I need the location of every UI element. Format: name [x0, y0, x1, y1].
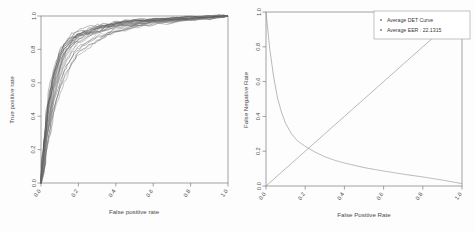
y-tick-label: 1.0: [256, 8, 262, 16]
roc-curve: [41, 15, 228, 182]
roc-curve: [41, 16, 228, 184]
legend-marker-det-curve: [380, 19, 382, 21]
roc-curve: [41, 15, 228, 183]
roc-curve: [41, 15, 228, 183]
y-tick-label: 0.6: [256, 78, 262, 86]
det-y-axis-title: False Negative Rate: [242, 71, 249, 128]
roc-curve-group: [40, 15, 228, 184]
roc-curve: [41, 16, 228, 183]
legend-label-det-curve: Average DET Curve: [387, 17, 433, 23]
y-tick-label: 0.0: [31, 179, 37, 187]
legend-marker-eer: [380, 29, 382, 31]
roc-svg: 0.00.20.40.60.81.0 0.00.20.40.60.81.0 Fa…: [0, 0, 238, 232]
x-tick-label: 0.0: [32, 188, 41, 198]
roc-plot-area: [38, 15, 229, 187]
det-x-axis-title: False Positive Rate: [337, 211, 391, 218]
roc-curve: [41, 15, 228, 183]
x-tick-label: 1.0: [219, 188, 228, 198]
det-x-tick-labels: 0.00.20.40.60.81.0: [257, 191, 462, 201]
x-tick-label: 0.2: [70, 188, 79, 198]
roc-curve: [41, 15, 228, 183]
roc-panel: 0.00.20.40.60.81.0 0.00.20.40.60.81.0 Fa…: [0, 0, 238, 232]
x-tick-label: 0.4: [336, 191, 345, 201]
x-tick-label: 0.6: [145, 188, 154, 198]
roc-curve: [41, 16, 228, 183]
y-tick-label: 0.0: [256, 182, 262, 190]
x-tick-label: 0.2: [297, 191, 306, 201]
y-tick-label: 0.8: [256, 43, 262, 51]
det-panel: 0.00.20.40.60.81.0 0.00.20.40.60.81.0 Fa…: [238, 0, 475, 232]
roc-x-tick-labels: 0.00.20.40.60.81.0: [32, 188, 228, 198]
figure-container: 0.00.20.40.60.81.0 0.00.20.40.60.81.0 Fa…: [0, 0, 475, 232]
y-tick-label: 0.2: [256, 147, 262, 155]
y-tick-label: 0.8: [31, 46, 37, 54]
y-tick-label: 0.6: [31, 79, 37, 87]
x-tick-label: 1.0: [453, 191, 462, 201]
y-tick-label: 0.4: [31, 112, 37, 120]
y-tick-label: 0.2: [31, 146, 37, 154]
det-y-tick-labels: 0.00.20.40.60.81.0: [256, 8, 262, 190]
det-legend: Average DET Curve Average EER : 22.1315: [374, 11, 470, 39]
roc-y-axis-title: True positive rate: [8, 76, 15, 124]
det-svg: 0.00.20.40.60.81.0 0.00.20.40.60.81.0 Fa…: [238, 0, 475, 232]
y-tick-label: 1.0: [31, 12, 37, 20]
roc-y-tick-labels: 0.00.20.40.60.81.0: [31, 12, 37, 187]
x-tick-label: 0.8: [182, 188, 191, 198]
x-tick-label: 0.4: [107, 188, 116, 198]
legend-label-eer: Average EER : 22.1315: [387, 27, 442, 33]
y-tick-label: 0.4: [256, 113, 262, 121]
x-tick-label: 0.6: [375, 191, 384, 201]
x-tick-label: 0.0: [257, 191, 266, 201]
roc-curve: [41, 16, 228, 182]
roc-x-axis-title: False positive rate: [109, 208, 160, 215]
roc-curve: [41, 15, 229, 183]
x-tick-label: 0.8: [414, 191, 423, 201]
legend-box: [374, 11, 470, 39]
